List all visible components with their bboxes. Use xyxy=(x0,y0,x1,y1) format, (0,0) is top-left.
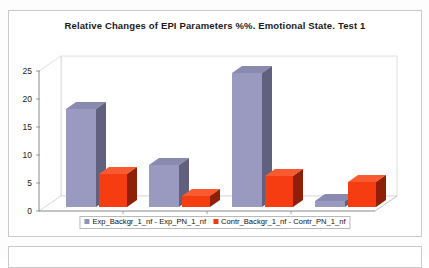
y-tick-label-0: 0 xyxy=(27,206,32,216)
y-tick-label-20: 20 xyxy=(23,94,33,104)
legend-item-contr[interactable]: Contr_Backgr_1_nf - Contr_PN_1_nf xyxy=(213,218,346,226)
y-tick-label-5: 5 xyxy=(27,178,32,188)
chart-container: Relative Changes of EPI Parameters %%. E… xyxy=(8,10,422,237)
chart-side-wall xyxy=(39,56,61,211)
chart-legend: Exp_Backgr_1_nf - Exp_PN_1_nf Contr_Back… xyxy=(79,216,350,229)
legend-label-contr: Contr_Backgr_1_nf - Contr_PN_1_nf xyxy=(221,218,346,226)
legend-label-exp: Exp_Backgr_1_nf - Exp_PN_1_nf xyxy=(92,218,206,226)
legend-item-exp[interactable]: Exp_Backgr_1_nf - Exp_PN_1_nf xyxy=(84,218,206,226)
bar-chart-svg: 0 5 10 15 20 25 xyxy=(9,11,421,236)
bar-contr-1 xyxy=(99,167,137,207)
legend-swatch-icon-contr xyxy=(213,219,218,224)
y-tick-label-10: 10 xyxy=(23,150,33,160)
legend-swatch-icon-exp xyxy=(84,219,89,224)
plot-area: 0 5 10 15 20 25 xyxy=(9,11,421,236)
y-tick-label-25: 25 xyxy=(23,66,33,76)
y-tick-label-15: 15 xyxy=(23,122,33,132)
bar-contr-3 xyxy=(265,169,303,207)
next-chart-frame xyxy=(8,246,422,268)
bar-contr-4 xyxy=(348,175,386,207)
